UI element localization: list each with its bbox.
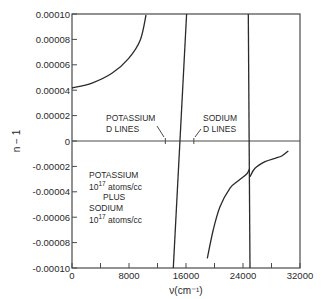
note-line5: 1017 atoms/cc — [89, 213, 143, 225]
series-line-3 — [248, 14, 250, 268]
y-tick-label: -0.00002 — [32, 161, 70, 172]
y-tick-labels: 0.000100.000080.000060.000040.000020-0.0… — [32, 9, 70, 274]
y-tick-label: 0.00002 — [36, 110, 70, 121]
x-axis-title: ν(cm⁻¹) — [169, 285, 202, 296]
note-line1: POTASSIUM — [89, 170, 138, 180]
series-line-2 — [207, 169, 249, 258]
x-tick-label: 0 — [69, 270, 74, 281]
x-tick-label: 16000 — [173, 270, 199, 281]
series-line-4 — [250, 151, 288, 177]
note-line2-base: 10 — [89, 182, 99, 192]
y-tick-label: 0.00006 — [36, 59, 70, 70]
y-tick-label: 0.00004 — [36, 85, 70, 96]
note-line2: 1017 atoms/cc — [89, 180, 143, 192]
y-tick-label: -0.00006 — [32, 212, 70, 223]
sodium-annotation-line2: D LINES — [203, 124, 236, 134]
refractivity-chart: 0.000100.000080.000060.000040.000020-0.0… — [0, 0, 326, 299]
x-tick-label: 8000 — [118, 270, 139, 281]
y-tick-label: -0.00008 — [32, 237, 70, 248]
y-tick-label: 0.00010 — [36, 9, 70, 20]
note-line5-rest: atoms/cc — [106, 215, 143, 225]
sodium-arrow — [195, 129, 201, 137]
y-tick-label: 0.00008 — [36, 34, 70, 45]
note-line3: PLUS — [103, 192, 126, 202]
note-line2-rest: atoms/cc — [106, 182, 143, 192]
y-tick-label: -0.00004 — [32, 186, 70, 197]
note-line4: SODIUM — [89, 203, 123, 213]
potassium-annotation-line1: POTASSIUM — [106, 113, 155, 123]
potassium-annotation-line2: D LINES — [106, 124, 139, 134]
x-tick-label: 24000 — [230, 270, 256, 281]
x-tick-label: 32000 — [287, 270, 313, 281]
note-line5-base: 10 — [89, 215, 99, 225]
y-tick-label: 0 — [65, 136, 70, 147]
x-tick-labels: 08000160002400032000 — [69, 270, 313, 281]
series-line-0 — [72, 15, 146, 88]
potassium-arrow — [157, 126, 164, 137]
y-axis-title: n − 1 — [11, 129, 22, 152]
sodium-annotation-line1: SODIUM — [203, 113, 237, 123]
y-tick-label: -0.00010 — [32, 263, 70, 274]
